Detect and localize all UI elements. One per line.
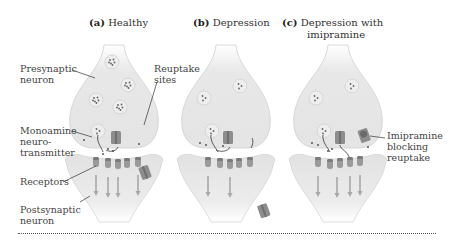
label-reuptake-sites: Reuptake sites	[154, 63, 200, 85]
label-monoamine-neurotransmitter: Monoamine neuro- transmitter	[20, 125, 77, 158]
label-presynaptic-neuron: Presynaptic neuron	[20, 63, 77, 85]
panel-a-label: Healthy	[108, 17, 148, 28]
panel-b-title: (b) Depression	[193, 17, 270, 29]
panel-c-title: (c) Depression with imipramine	[282, 17, 383, 41]
panel-c-letter: (c)	[282, 17, 298, 28]
label-receptors: Receptors	[20, 176, 69, 187]
panel-c-label: Depression with	[301, 17, 383, 28]
panel-a-letter: (a)	[89, 17, 105, 28]
label-postsynaptic-neuron: Postsynaptic neuron	[20, 204, 81, 226]
panel-b-label: Depression	[213, 17, 270, 28]
label-imipramine-blocking: Imipramine blocking reuptake	[387, 130, 443, 163]
panel-b-letter: (b)	[193, 17, 209, 28]
panel-a-title: (a) Healthy	[89, 17, 148, 29]
synapse-figure: (a) Healthy (b) Depression (c) Depressio…	[0, 0, 454, 246]
dotted-divider	[18, 233, 436, 234]
panel-c-label-line2: imipramine	[282, 29, 383, 41]
panel-imipramine	[289, 45, 387, 222]
